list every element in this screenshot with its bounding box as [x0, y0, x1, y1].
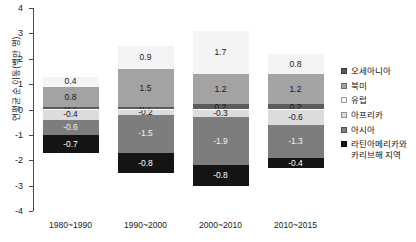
- bar-group[interactable]: 0.21.20.8-0.6-1.3-0.4: [268, 8, 324, 211]
- legend-label: 북미: [351, 81, 367, 92]
- legend-label: 유럽: [351, 95, 367, 106]
- bar-segment[interactable]: -0.6: [268, 110, 324, 125]
- bar-segment-value: -0.8: [138, 159, 153, 168]
- bar-group[interactable]: 0.11.50.9-0.2-1.5-0.8: [118, 8, 174, 211]
- legend-item[interactable]: 아시아: [341, 125, 416, 136]
- bar-segment-value: 1.2: [215, 85, 227, 94]
- bar-segment[interactable]: 0.9: [118, 46, 174, 69]
- legend: 오세아니아북미유럽아프리카아시아라틴아메리카와 카리브해 지역: [341, 66, 416, 165]
- y-tick-label: -3: [15, 181, 23, 191]
- bar-segment-value: 0.8: [65, 93, 77, 102]
- bar-segment-value: -0.4: [288, 159, 303, 168]
- bar-segment-value: -1.5: [138, 129, 153, 138]
- y-tick-label: 3: [18, 28, 23, 38]
- bar-segment-value: -0.6: [288, 113, 303, 122]
- bar-group[interactable]: 0.10.80.4-0.4-0.6-0.7: [43, 8, 99, 211]
- bar-segment-value: -0.7: [63, 140, 78, 149]
- bar-segment-value: 1.2: [290, 85, 302, 94]
- legend-swatch-icon: [341, 97, 347, 103]
- bar-segment[interactable]: -0.8: [193, 165, 249, 185]
- bar-segment-value: 1.7: [215, 48, 227, 57]
- legend-label: 라틴아메리카와 카리브해 지역: [351, 139, 407, 160]
- legend-item[interactable]: 오세아니아: [341, 66, 416, 77]
- bar-segment[interactable]: -1.9: [193, 117, 249, 165]
- bar-segment[interactable]: -0.7: [43, 135, 99, 153]
- bar-segment[interactable]: -0.8: [118, 153, 174, 173]
- x-tick-label: 1980~1990: [33, 220, 108, 230]
- y-tick-label: 4: [18, 3, 23, 13]
- legend-item[interactable]: 라틴아메리카와 카리브해 지역: [341, 139, 416, 160]
- bar-segment-value: -0.8: [213, 171, 228, 180]
- legend-label: 아프리카: [351, 110, 383, 121]
- legend-label: 아시아: [351, 125, 375, 136]
- y-tick-label: -4: [15, 206, 23, 216]
- bar-segment[interactable]: -0.4: [268, 158, 324, 168]
- y-tick-label: -1: [15, 130, 23, 140]
- bar-segment-value: -0.3: [213, 110, 228, 118]
- bar-segment-value: 0.4: [65, 77, 77, 86]
- bar-segment[interactable]: -1.3: [268, 125, 324, 158]
- y-tick-label: 0: [18, 105, 23, 115]
- bar-segment-value: -0.6: [63, 123, 78, 132]
- bar-segment[interactable]: 1.2: [268, 74, 324, 104]
- bar-segment-value: 1.5: [140, 84, 152, 93]
- bar-segment-value: 0.8: [290, 60, 302, 69]
- x-tick-label: 2000~2010: [183, 220, 258, 230]
- stacked-bar-chart: 연평균 순 이동(백만 명) 43210-1-2-3-4 0.10.80.4-0…: [0, 0, 416, 242]
- plot-area: 43210-1-2-3-4 0.10.80.4-0.4-0.6-0.70.11.…: [33, 8, 333, 211]
- legend-item[interactable]: 북미: [341, 81, 416, 92]
- legend-swatch-icon: [341, 127, 347, 133]
- legend-item[interactable]: 아프리카: [341, 110, 416, 121]
- bar-segment-value: -1.3: [288, 137, 303, 146]
- bar-segment[interactable]: -0.3: [193, 110, 249, 118]
- bar-segment[interactable]: -1.5: [118, 115, 174, 153]
- bar-segment[interactable]: -0.6: [43, 120, 99, 135]
- bar-segment[interactable]: 0.8: [43, 87, 99, 107]
- y-tick: -4: [29, 211, 33, 212]
- y-tick-label: -2: [15, 155, 23, 165]
- legend-item[interactable]: 유럽: [341, 95, 416, 106]
- legend-swatch-icon: [341, 112, 347, 118]
- bar-segment[interactable]: 1.5: [118, 69, 174, 107]
- bar-segment[interactable]: 0.4: [43, 77, 99, 87]
- bar-segment-value: 0.9: [140, 53, 152, 62]
- legend-swatch-icon: [341, 68, 347, 74]
- x-tick-label: 2010~2015: [258, 220, 333, 230]
- bar-group[interactable]: 0.21.21.7-0.3-1.9-0.8: [193, 8, 249, 211]
- bar-segment[interactable]: 1.2: [193, 74, 249, 104]
- y-tick-label: 2: [18, 54, 23, 64]
- bar-segment[interactable]: 1.7: [193, 31, 249, 74]
- bars-container: 0.10.80.4-0.4-0.6-0.70.11.50.9-0.2-1.5-0…: [33, 8, 333, 211]
- bar-segment-value: -1.9: [213, 137, 228, 146]
- legend-label: 오세아니아: [351, 66, 391, 77]
- bar-segment-value: -0.4: [63, 110, 78, 119]
- bar-segment[interactable]: 0.8: [268, 54, 324, 74]
- legend-swatch-icon: [341, 141, 347, 147]
- y-tick-label: 1: [18, 79, 23, 89]
- bar-segment[interactable]: -0.4: [43, 110, 99, 120]
- x-tick-label: 1990~2000: [108, 220, 183, 230]
- legend-swatch-icon: [341, 83, 347, 89]
